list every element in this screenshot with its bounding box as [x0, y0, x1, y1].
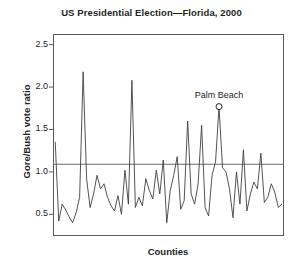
y-tick-label: 1.5 [22, 123, 48, 133]
annotation-label-palm-beach: Palm Beach [159, 90, 279, 100]
y-axis-tick-labels: 0.51.01.52.02.5 [18, 0, 48, 267]
annotation-marker-palm-beach [216, 104, 222, 110]
y-tick-label: 1.0 [22, 166, 48, 176]
chart-figure: US Presidential Election—Florida, 2000 G… [0, 0, 303, 267]
y-axis-ticks [49, 45, 54, 215]
y-tick-label: 2.0 [22, 81, 48, 91]
y-tick-label: 0.5 [22, 208, 48, 218]
y-tick-label: 2.5 [22, 39, 48, 49]
x-axis-label: Counties [53, 246, 283, 257]
